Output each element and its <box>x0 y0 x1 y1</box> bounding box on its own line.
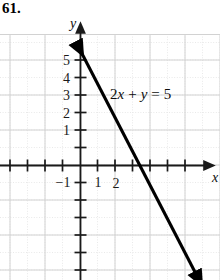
equation-var-y: y <box>139 86 148 102</box>
equation-label: 2x+y=5 <box>110 86 171 102</box>
x-tick-label-neg1: −1 <box>56 175 71 190</box>
plotted-line-2x-plus-y-equals-5 <box>77 44 196 274</box>
figure-container: 61. <box>0 0 220 280</box>
equation-plus: + <box>128 86 136 102</box>
grid-minor <box>0 34 220 280</box>
equation-coefficient: 2 <box>110 86 118 102</box>
y-tick-label-4: 4 <box>63 71 70 86</box>
x-axis-label: x <box>211 170 219 185</box>
equation-rhs: 5 <box>164 86 172 102</box>
equation-var-x: x <box>117 86 125 102</box>
y-tick-label-1: 1 <box>63 123 70 138</box>
x-tick-label-1: 1 <box>95 175 102 190</box>
equation-equals: = <box>151 86 159 102</box>
coordinate-plane: 5 4 3 2 1 −1 1 2 y x 2x+y=5 <box>0 0 220 280</box>
x-tick-label-2: 2 <box>113 176 120 191</box>
y-tick-label-3: 3 <box>63 88 70 103</box>
svg-text:2x+y=5: 2x+y=5 <box>110 86 171 102</box>
y-axis-label: y <box>68 16 77 31</box>
y-tick-label-5: 5 <box>63 53 70 68</box>
y-tick-label-2: 2 <box>63 106 70 121</box>
grid-major <box>0 34 220 280</box>
y-tick-labels: 5 4 3 2 1 <box>63 53 70 138</box>
